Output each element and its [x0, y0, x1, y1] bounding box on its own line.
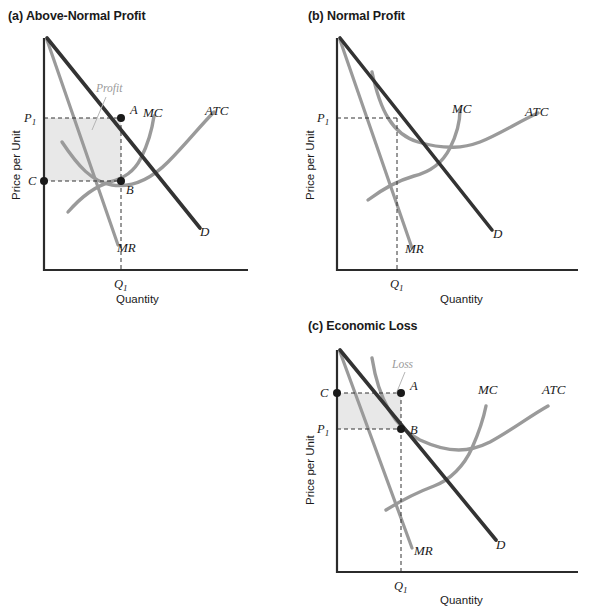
point-a-marker [397, 389, 405, 397]
x-axis-title: Quantity [116, 293, 159, 305]
profit-region-label: Profit [95, 82, 123, 95]
mr-label: MR [116, 240, 136, 255]
point-c-marker [333, 389, 341, 397]
x-axis-title: Quantity [440, 293, 483, 305]
y-axis-title: Price per Unit [304, 435, 316, 505]
y-axis-title: Price per Unit [10, 130, 22, 200]
p1-tick-label: P1 [316, 111, 329, 127]
point-b-marker [117, 177, 125, 185]
mr-label: MR [404, 241, 424, 256]
point-a-marker [117, 114, 125, 122]
panel-c: (c) Economic Loss [300, 310, 593, 607]
point-a-label: A [129, 103, 138, 117]
c-tick-label: C [28, 174, 37, 188]
mr-label: MR [413, 543, 433, 558]
q1-tick-label: Q1 [390, 277, 404, 293]
d-label: D [199, 224, 210, 239]
c-tick-label: C [320, 386, 329, 400]
atc-label: ATC [204, 103, 229, 118]
point-c-marker [40, 177, 48, 185]
panel-b: (b) Normal Profit P1 Q1 MC ATC MR D Pric… [300, 0, 593, 310]
panel-a-plot: Profit A B P1 C Q1 MC ATC MR D Price per… [0, 0, 300, 310]
x-axis-title: Quantity [440, 594, 483, 606]
empty-quadrant [0, 310, 300, 607]
panel-a: (a) Above-Normal Profit [0, 0, 300, 310]
point-b-label: B [410, 423, 418, 437]
atc-label: ATC [524, 104, 549, 119]
q1-tick-label: Q1 [114, 277, 128, 293]
mr-curve [340, 40, 412, 248]
mc-label: MC [477, 382, 498, 397]
point-a-label: A [409, 379, 418, 393]
figure-grid: (a) Above-Normal Profit [0, 0, 593, 607]
demand-curve [340, 38, 492, 230]
mc-label: MC [142, 105, 163, 120]
d-label: D [495, 537, 506, 552]
atc-label: ATC [541, 382, 566, 397]
q1-tick-label: Q1 [394, 579, 408, 595]
p1-tick-label: P1 [316, 422, 329, 438]
profit-shaded-region [44, 118, 121, 181]
point-b-marker [397, 425, 405, 433]
p1-tick-label: P1 [23, 111, 36, 127]
panel-c-plot: Loss A B C P1 Q1 MC ATC MR D Price per U… [300, 310, 593, 607]
mc-curve [368, 110, 460, 200]
d-label: D [492, 226, 503, 241]
point-b-label: B [126, 183, 134, 197]
mc-label: MC [451, 101, 472, 116]
y-axis-title: Price per Unit [304, 130, 316, 200]
loss-region-label: Loss [391, 358, 414, 370]
panel-b-plot: P1 Q1 MC ATC MR D Price per Unit Quantit… [300, 0, 593, 310]
